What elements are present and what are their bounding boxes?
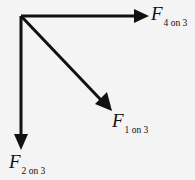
force-diagram: F4 on 3 F1 on 3 F2 on 3 [0,0,195,180]
label-f2on3: F2 on 3 [9,152,45,171]
vector-f2on3-arrow [14,16,28,150]
force-symbol: F [9,151,21,172]
label-f4on3: F4 on 3 [151,4,187,23]
force-symbol: F [112,110,124,131]
vector-f4on3-arrow [21,9,149,23]
force-subscript: 4 on 3 [164,18,188,28]
label-f1on3: F1 on 3 [112,111,148,130]
vector-f1on3-arrow [21,16,112,111]
force-subscript: 2 on 3 [22,166,46,176]
force-subscript: 1 on 3 [125,125,149,135]
force-symbol: F [151,3,163,24]
